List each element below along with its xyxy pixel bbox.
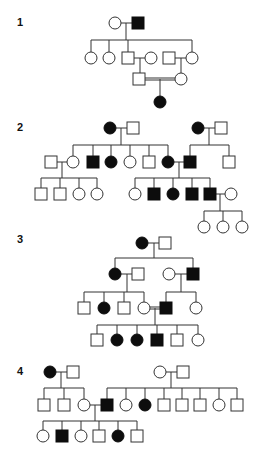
unaffected-female-icon [85, 52, 97, 64]
unaffected-female-icon [145, 52, 157, 64]
unaffected-female-icon [138, 302, 150, 314]
panel-label-1: 1 [17, 16, 23, 28]
unaffected-male-icon [163, 52, 175, 64]
unaffected-female-icon [236, 221, 248, 233]
unaffected-male-icon [215, 122, 227, 134]
affected-male-icon [204, 188, 216, 200]
unaffected-male-icon [35, 188, 47, 200]
unaffected-female-icon [129, 188, 141, 200]
panel-label-2: 2 [17, 121, 23, 133]
unaffected-female-icon [154, 366, 166, 378]
unaffected-male-icon [223, 156, 235, 168]
unaffected-male-icon [231, 399, 243, 411]
unaffected-male-icon [143, 156, 155, 168]
pedigree-individuals-4 [37, 366, 243, 442]
affected-male-icon [151, 334, 163, 346]
affected-male-icon [148, 188, 160, 200]
affected-male-icon [186, 188, 198, 200]
unaffected-female-icon [163, 268, 175, 280]
unaffected-male-icon [67, 366, 79, 378]
pedigree-lines-3 [84, 243, 198, 334]
unaffected-female-icon [78, 399, 90, 411]
unaffected-female-icon [213, 399, 225, 411]
unaffected-male-icon [91, 334, 103, 346]
affected-male-icon [56, 430, 68, 442]
affected-female-icon [98, 302, 110, 314]
unaffected-female-icon [186, 52, 198, 64]
affected-male-icon [160, 302, 172, 314]
unaffected-male-icon [58, 399, 70, 411]
affected-female-icon [104, 122, 116, 134]
unaffected-female-icon [120, 399, 132, 411]
unaffected-male-icon [54, 188, 66, 200]
unaffected-male-icon [127, 122, 139, 134]
affected-female-icon [167, 188, 179, 200]
affected-female-icon [154, 96, 166, 108]
pedigree-lines-2 [41, 128, 242, 221]
affected-female-icon [111, 334, 123, 346]
unaffected-male-icon [122, 52, 134, 64]
affected-female-icon [105, 156, 117, 168]
unaffected-female-icon [103, 52, 115, 64]
unaffected-male-icon [177, 366, 189, 378]
affected-female-icon [139, 399, 151, 411]
unaffected-female-icon [124, 156, 136, 168]
affected-male-icon [87, 156, 99, 168]
affected-male-icon [132, 17, 144, 29]
affected-female-icon [109, 268, 121, 280]
affected-female-icon [162, 156, 174, 168]
affected-male-icon [187, 268, 199, 280]
affected-female-icon [136, 237, 148, 249]
pedigree-panel-2: 2 [17, 121, 248, 233]
affected-male-icon [184, 156, 196, 168]
unaffected-female-icon [225, 188, 237, 200]
panel-label-4: 4 [17, 365, 24, 377]
unaffected-male-icon [118, 302, 130, 314]
unaffected-female-icon [192, 334, 204, 346]
unaffected-female-icon [37, 430, 49, 442]
pedigree-panel-1: 1 [17, 16, 198, 108]
unaffected-female-icon [217, 221, 229, 233]
unaffected-male-icon [159, 237, 171, 249]
unaffected-female-icon [67, 156, 79, 168]
unaffected-female-icon [73, 188, 85, 200]
unaffected-male-icon [45, 156, 57, 168]
unaffected-male-icon [194, 399, 206, 411]
unaffected-female-icon [198, 221, 210, 233]
unaffected-male-icon [93, 430, 105, 442]
unaffected-male-icon [132, 268, 144, 280]
unaffected-male-icon [158, 399, 170, 411]
affected-female-icon [44, 366, 56, 378]
panel-label-3: 3 [17, 233, 23, 245]
unaffected-male-icon [133, 73, 145, 85]
unaffected-male-icon [78, 302, 90, 314]
pedigree-figure: 1 2 3 4 [0, 0, 261, 457]
affected-female-icon [192, 122, 204, 134]
affected-female-icon [131, 334, 143, 346]
unaffected-female-icon [75, 430, 87, 442]
unaffected-female-icon [190, 302, 202, 314]
unaffected-male-icon [176, 399, 188, 411]
unaffected-male-icon [171, 334, 183, 346]
unaffected-male-icon [131, 430, 143, 442]
pedigree-panel-4: 4 [17, 365, 243, 442]
unaffected-female-icon [109, 17, 121, 29]
unaffected-male-icon [38, 399, 50, 411]
pedigree-panel-3: 3 [17, 233, 204, 346]
unaffected-female-icon [91, 188, 103, 200]
unaffected-female-icon [175, 73, 187, 85]
affected-male-icon [101, 399, 113, 411]
affected-female-icon [112, 430, 124, 442]
